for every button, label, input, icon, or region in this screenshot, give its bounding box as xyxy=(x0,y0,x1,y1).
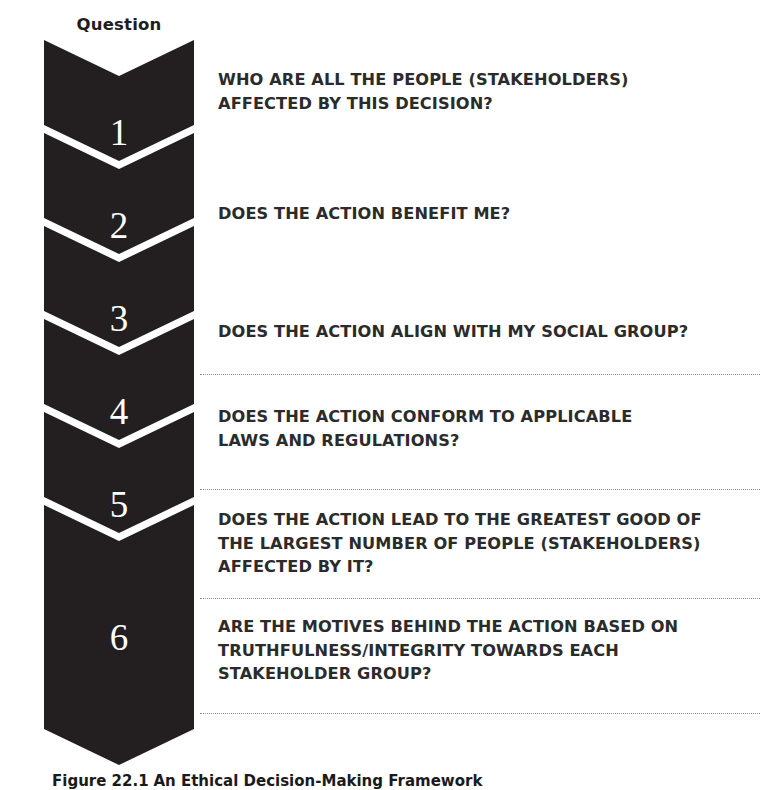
question-line: ARE THE MOTIVES BEHIND THE ACTION BASED … xyxy=(218,615,758,639)
question-text-6: ARE THE MOTIVES BEHIND THE ACTION BASED … xyxy=(218,615,758,686)
figure-caption: Figure 22.1 An Ethical Decision-Making F… xyxy=(52,772,752,790)
question-line: TRUTHFULNESS/INTEGRITY TOWARDS EACH xyxy=(218,639,758,663)
question-text-1: WHO ARE ALL THE PEOPLE (STAKEHOLDERS) AF… xyxy=(218,68,758,115)
chevron-number-4: 4 xyxy=(110,391,129,432)
question-line: DOES THE ACTION LEAD TO THE GREATEST GOO… xyxy=(218,508,758,532)
chevron-arrow-stack: 1 2 3 4 5 6 xyxy=(44,40,194,768)
question-line: LAWS AND REGULATIONS? xyxy=(218,429,758,453)
figure-caption-text: An Ethical Decision-Making Framework xyxy=(153,772,482,790)
dotted-separator xyxy=(200,713,760,714)
question-line: DOES THE ACTION ALIGN WITH MY SOCIAL GRO… xyxy=(218,320,758,344)
question-line: WHO ARE ALL THE PEOPLE (STAKEHOLDERS) xyxy=(218,68,758,92)
question-line: DOES THE ACTION BENEFIT ME? xyxy=(218,202,758,226)
question-text-5: DOES THE ACTION LEAD TO THE GREATEST GOO… xyxy=(218,508,758,579)
chevron-number-6: 6 xyxy=(110,617,129,658)
question-text-2: DOES THE ACTION BENEFIT ME? xyxy=(218,202,758,226)
dotted-separator xyxy=(200,598,760,599)
dotted-separator xyxy=(200,374,760,375)
question-line: THE LARGEST NUMBER OF PEOPLE (STAKEHOLDE… xyxy=(218,532,758,556)
chevron-number-2: 2 xyxy=(110,205,129,246)
question-column-header: Question xyxy=(44,15,194,34)
question-text-3: DOES THE ACTION ALIGN WITH MY SOCIAL GRO… xyxy=(218,320,758,344)
question-text-4: DOES THE ACTION CONFORM TO APPLICABLE LA… xyxy=(218,405,758,452)
question-line: DOES THE ACTION CONFORM TO APPLICABLE xyxy=(218,405,758,429)
question-line: AFFECTED BY THIS DECISION? xyxy=(218,92,758,116)
chevron-number-1: 1 xyxy=(110,112,129,153)
figure-caption-label: Figure 22.1 xyxy=(52,772,149,790)
chevron-number-3: 3 xyxy=(110,298,129,339)
question-line: STAKEHOLDER GROUP? xyxy=(218,662,758,686)
question-line: AFFECTED BY IT? xyxy=(218,555,758,579)
dotted-separator xyxy=(200,489,760,490)
chevron-number-5: 5 xyxy=(110,484,129,525)
